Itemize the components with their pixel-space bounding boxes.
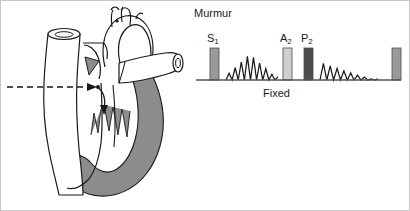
fixed-splitting-label: Fixed [263, 88, 290, 99]
figure-container: Murmur Fixed S1A2P2 [0, 0, 410, 211]
murmur-label: Murmur [194, 8, 232, 19]
heart-cross-section-svg [1, 1, 186, 211]
heart-sound-bar-p2 [304, 48, 313, 80]
murmur-diastolic-flow-rumble [320, 63, 378, 80]
heart-sound-bar-s1-next [392, 48, 401, 80]
pulmonary-artery [119, 53, 183, 83]
heart-diagram-panel [1, 1, 186, 211]
murmur-systolic-murmur [226, 56, 278, 80]
murmur-waveforms [226, 56, 378, 80]
heart-sound-bar-s1 [210, 48, 219, 80]
heart-sound-label-p2: P2 [301, 33, 313, 44]
superior-vena-cava [44, 29, 83, 196]
phonocardiogram-trace [186, 1, 410, 211]
heart-sound-label-a2: A2 [280, 33, 292, 44]
heart-sound-bar-a2 [283, 48, 292, 80]
heart-sound-label-s1: S1 [207, 33, 219, 44]
phonocardiogram-panel: Murmur Fixed S1A2P2 [186, 1, 410, 211]
